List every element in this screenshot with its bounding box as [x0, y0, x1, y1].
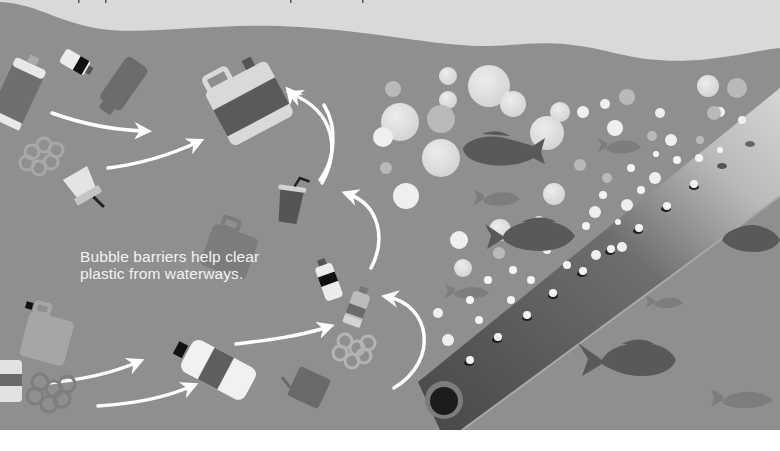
caption-line-1: Bubble barriers help clear	[80, 248, 300, 265]
caption-line-2: plastic from waterways.	[80, 265, 300, 282]
bottom-margin	[0, 430, 780, 451]
caption: Bubble barriers help clear plastic from …	[80, 248, 300, 282]
bubble-barrier-illustration	[0, 0, 780, 430]
